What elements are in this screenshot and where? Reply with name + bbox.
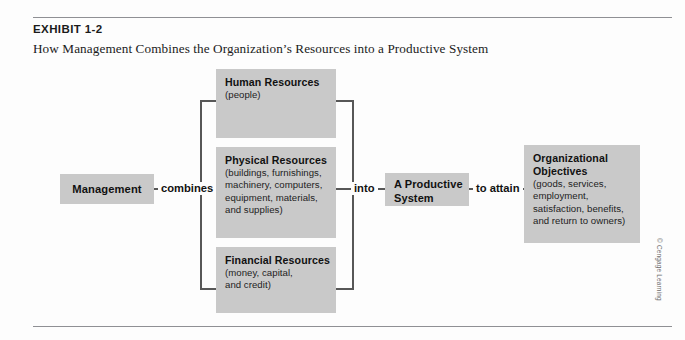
management-box: Management	[60, 174, 154, 204]
connector-label-into: into	[351, 182, 378, 195]
productive-system-box: A Productive System	[385, 173, 469, 206]
financial-resources-detail: (money, capital, and credit)	[225, 267, 336, 292]
right-bracket-top-arm	[336, 100, 354, 102]
left-bracket-vertical	[200, 100, 202, 290]
organizational-objectives-box: Organizational Objectives (goods, servic…	[524, 145, 640, 243]
management-box-title: Management	[72, 183, 141, 196]
human-resources-detail: (people)	[225, 89, 336, 101]
physical-resources-title: Physical Resources	[225, 154, 336, 167]
organizational-objectives-title: Organizational Objectives	[533, 152, 640, 178]
productive-system-title: A Productive System	[394, 178, 469, 205]
copyright-credit: © Cengage Learning	[656, 238, 663, 324]
human-resources-title: Human Resources	[225, 76, 336, 89]
right-bracket-vertical	[352, 100, 354, 290]
physical-resources-detail: (buildings, furnishings, machinery, comp…	[225, 167, 336, 217]
physical-resources-box: Physical Resources (buildings, furnishin…	[216, 147, 336, 238]
financial-resources-box: Financial Resources (money, capital, and…	[216, 247, 336, 313]
organizational-objectives-detail: (goods, services, employment, satisfacti…	[533, 178, 640, 228]
human-resources-box: Human Resources (people)	[216, 69, 336, 138]
bottom-divider-rule	[33, 326, 672, 327]
right-bracket-bottom-arm	[336, 288, 354, 290]
resource-system-diagram: Management Human Resources (people) Phys…	[0, 0, 685, 340]
exhibit-page: EXHIBIT 1-2 How Management Combines the …	[0, 0, 685, 340]
financial-resources-title: Financial Resources	[225, 254, 336, 267]
connector-label-to-attain: to attain	[473, 182, 523, 195]
connector-label-combines: combines	[158, 182, 216, 195]
